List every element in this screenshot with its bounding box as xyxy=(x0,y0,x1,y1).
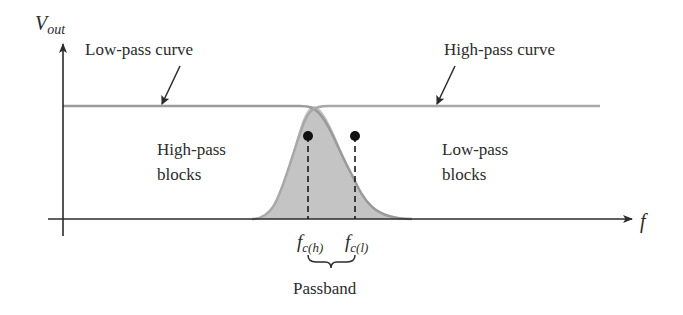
low-pass-blocks-label: Low-pass blocks xyxy=(442,140,512,184)
passband-brace xyxy=(308,255,355,268)
high-pass-callout-arrow xyxy=(437,66,455,104)
x-axis-label: f xyxy=(640,210,648,233)
cutoff-high-label: fc(h) xyxy=(297,231,323,255)
high-pass-curve-label: High-pass curve xyxy=(444,40,555,59)
band-pass-diagram: Vout f Low-pass curve High-pass curve Hi… xyxy=(0,0,683,315)
low-pass-callout-arrow xyxy=(162,66,180,104)
cutoff-high-marker xyxy=(303,131,313,141)
low-pass-curve-label: Low-pass curve xyxy=(85,40,193,59)
passband-label: Passband xyxy=(293,279,357,298)
cutoff-low-marker xyxy=(350,131,360,141)
cutoff-low-label: fc(l) xyxy=(345,231,368,255)
y-axis-label: Vout xyxy=(35,12,66,37)
high-pass-blocks-label: High-pass blocks xyxy=(157,140,230,184)
